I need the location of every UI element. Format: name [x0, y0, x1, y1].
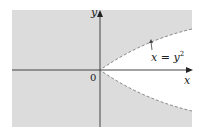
x-axis-label: x: [184, 75, 190, 86]
equation-equals: =: [161, 51, 170, 64]
region-plot: [0, 0, 203, 136]
equation-lhs: x: [151, 51, 157, 64]
curve-equation-label: x = y2: [151, 51, 184, 63]
equation-exponent: 2: [180, 50, 184, 58]
origin-label: 0: [90, 73, 96, 83]
y-axis-label: y: [91, 7, 97, 18]
